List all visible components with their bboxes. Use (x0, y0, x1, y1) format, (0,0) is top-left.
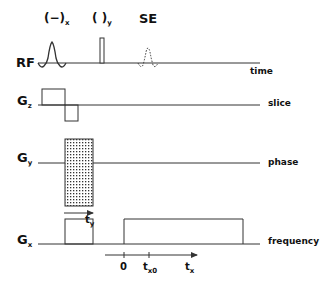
rf-row (38, 38, 260, 67)
pulse-sequence-diagram: (−)x ( )y SE RF Gz Gy Gx time slice phas… (0, 0, 327, 283)
slice-label: slice (268, 99, 291, 108)
frequency-label: frequency (268, 237, 319, 246)
tick-label-tx0: tx0 (143, 262, 157, 275)
phase-time-label: ty (85, 215, 94, 228)
time-axis (105, 252, 197, 258)
echo-label-main: SE (139, 11, 157, 26)
tx0-sub: x0 (148, 267, 157, 275)
gx-axis-label: Gx (17, 233, 32, 249)
time-label: time (250, 67, 273, 76)
gy-axis-label: Gy (17, 151, 32, 167)
refocus-pulse-label: ( )y (92, 12, 112, 27)
gz-row (38, 89, 260, 121)
refocus-label-main: ( ) (92, 11, 107, 25)
gy-sub: y (28, 159, 33, 167)
gx-sub: x (28, 241, 33, 249)
spin-echo-label: SE (139, 12, 157, 25)
tick-label-zero: 0 (120, 262, 127, 272)
slice-select-lobe (42, 89, 65, 105)
gz-sub: z (28, 102, 32, 110)
gy-name: G (17, 150, 28, 165)
gy-row (38, 139, 260, 213)
gx-name: G (17, 232, 28, 247)
excitation-label-sub: x (65, 19, 70, 27)
refocus-rect-pulse (100, 38, 104, 63)
zero-main: 0 (120, 261, 127, 272)
refocus-label-sub: y (107, 19, 112, 27)
excitation-label-main: (−) (44, 11, 65, 25)
phase-encode-table (65, 139, 93, 206)
readout-lobe (124, 219, 243, 244)
gz-axis-label: Gz (17, 94, 32, 110)
rf-name: RF (16, 55, 35, 70)
slice-rephase-lobe (65, 105, 78, 121)
spin-echo-signal (138, 48, 158, 67)
gz-name: G (17, 93, 28, 108)
tx-sub: x (190, 267, 195, 275)
excitation-pulse-label: (−)x (44, 12, 70, 27)
rf-axis-label: RF (16, 56, 35, 69)
gx-row (38, 219, 260, 244)
phase-label: phase (268, 158, 298, 167)
time-axis-end-label: tx (185, 262, 194, 275)
ty-sub: y (90, 220, 95, 228)
